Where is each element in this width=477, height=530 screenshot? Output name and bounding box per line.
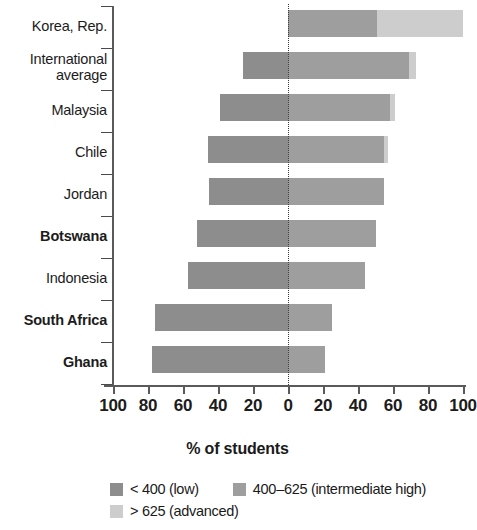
bar-segment-intermediate-high (288, 94, 390, 121)
x-axis-line (104, 385, 466, 387)
y-tick-mark (101, 90, 112, 91)
bar-segment-intermediate-high (288, 136, 384, 163)
legend-entry-advanced: > 625 (advanced) (110, 503, 238, 519)
bar-row (0, 94, 475, 121)
x-tick-label: 0 (283, 396, 292, 416)
legend-row-1: < 400 (low) 400–625 (intermediate high) (110, 478, 470, 500)
bar-row (0, 220, 475, 247)
x-tick-mark (218, 386, 220, 394)
legend-entry-low: < 400 (low) (110, 481, 199, 497)
x-tick-mark (393, 386, 395, 394)
x-tick-mark (288, 386, 290, 394)
legend-label-intermediate-high: 400–625 (intermediate high) (253, 481, 426, 497)
bar-row (0, 346, 475, 373)
x-tick-mark (428, 386, 430, 394)
bar-segment-advanced (384, 136, 388, 163)
x-tick-mark (463, 386, 465, 394)
bar-segment-intermediate-high (288, 346, 325, 373)
bar-row (0, 262, 475, 289)
bar-segment-advanced (409, 52, 416, 79)
plot-area: Korea, Rep. International average Malays… (0, 0, 475, 392)
bar-segment-low (208, 136, 289, 163)
bar-segment-intermediate-high (288, 220, 376, 247)
bar-segment-low (155, 304, 288, 331)
bar-row (0, 10, 475, 37)
x-tick-label: 40 (349, 396, 367, 416)
bar-segment-intermediate-high (288, 52, 409, 79)
x-tick-mark (183, 386, 185, 394)
bar-segment-low (152, 346, 289, 373)
bar-segment-low (209, 178, 288, 205)
x-tick-label: 60 (174, 396, 192, 416)
x-tick-label: 80 (139, 396, 157, 416)
y-tick-mark (101, 258, 112, 259)
bar-segment-low (188, 262, 288, 289)
y-tick-mark (101, 6, 112, 7)
legend-row-2: > 625 (advanced) (110, 500, 470, 522)
legend-label-advanced: > 625 (advanced) (130, 503, 238, 519)
legend-swatch-intermediate-high-icon (233, 483, 246, 496)
bar-segment-intermediate-high (288, 178, 384, 205)
x-tick-label: 80 (419, 396, 437, 416)
y-tick-mark (101, 174, 112, 175)
bar-segment-advanced (377, 10, 463, 37)
bar-row (0, 304, 475, 331)
x-tick-mark (148, 386, 150, 394)
bar-row (0, 136, 475, 163)
legend-swatch-advanced-icon (110, 505, 123, 518)
bar-segment-low (197, 220, 288, 247)
zero-reference-line (288, 4, 289, 385)
bar-row (0, 178, 475, 205)
y-tick-mark (101, 48, 112, 49)
bar-segment-low (220, 94, 288, 121)
bar-row (0, 52, 475, 79)
legend-swatch-low-icon (110, 483, 123, 496)
x-axis-title: % of students (0, 440, 475, 458)
x-tick-label: 60 (384, 396, 402, 416)
x-tick-label: 100 (99, 396, 126, 416)
x-tick-mark (253, 386, 255, 394)
y-tick-mark (101, 132, 112, 133)
legend-label-low: < 400 (low) (130, 481, 199, 497)
x-tick-label: 20 (244, 396, 262, 416)
x-tick-label: 20 (314, 396, 332, 416)
y-tick-mark (101, 300, 112, 301)
y-tick-mark (101, 216, 112, 217)
legend-entry-intermediate-high: 400–625 (intermediate high) (233, 481, 426, 497)
y-tick-mark (101, 342, 112, 343)
x-tick-label: 40 (209, 396, 227, 416)
x-tick-mark (358, 386, 360, 394)
x-tick-mark (113, 386, 115, 394)
bar-segment-intermediate-high (288, 262, 365, 289)
bar-segment-advanced (390, 94, 395, 121)
bar-segment-intermediate-high (288, 10, 377, 37)
bar-segment-intermediate-high (288, 304, 332, 331)
x-tick-label: 100 (449, 396, 476, 416)
bar-segment-low (243, 52, 289, 79)
chart-legend: < 400 (low) 400–625 (intermediate high) … (110, 478, 470, 522)
x-tick-mark (323, 386, 325, 394)
